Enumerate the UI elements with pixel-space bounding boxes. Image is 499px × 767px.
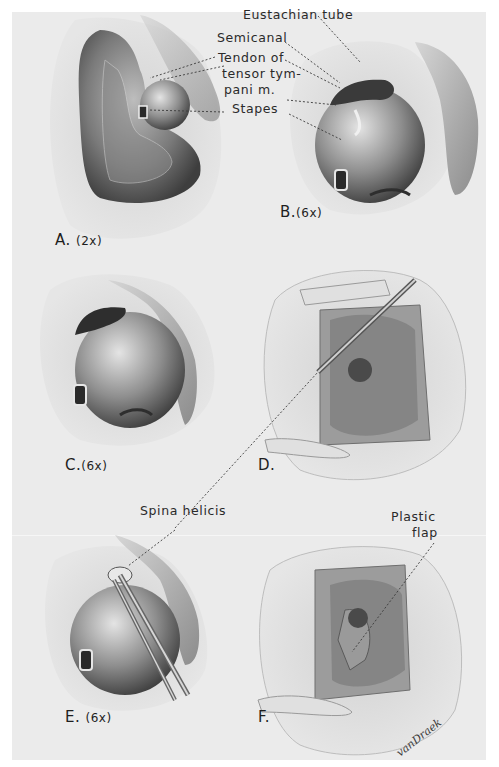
panel-c-drawing <box>40 274 214 445</box>
panel-label-c: C.(6x) <box>65 458 107 473</box>
label-semicanal: Semicanal <box>217 32 287 45</box>
panel-a-drawing <box>50 15 221 239</box>
panel-label-a: A. (2x) <box>55 233 102 248</box>
panel-label-d: D. <box>258 458 275 473</box>
label-tendon-line2: tensor tym- <box>222 68 301 81</box>
panel-d-drawing <box>264 270 466 479</box>
label-plastic-flap-line1: Plastic <box>391 511 436 524</box>
label-eustachian-tube: Eustachian tube <box>243 9 353 22</box>
label-plastic-flap-line2: flap <box>412 527 438 540</box>
label-stapes: Stapes <box>232 103 278 116</box>
label-spina-helicis: Spina helicis <box>140 505 226 518</box>
panel-label-e: E. (6x) <box>65 710 112 725</box>
panel-e-drawing <box>45 535 207 711</box>
label-tendon-line3: pani m. <box>224 84 275 97</box>
panel-label-b: B.(6x) <box>280 205 322 220</box>
label-tendon-line1: Tendon of <box>218 52 284 65</box>
panel-label-f: F. <box>258 710 270 725</box>
